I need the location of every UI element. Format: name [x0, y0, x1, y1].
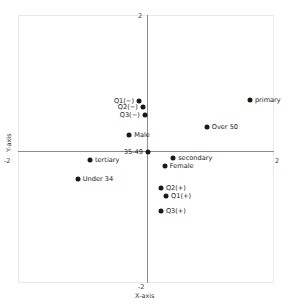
data-point-label: Under 34 — [83, 176, 113, 183]
data-point-label: Male — [134, 132, 150, 139]
data-point-label: Q2(+) — [166, 185, 186, 192]
data-point-marker — [87, 157, 92, 162]
data-point-marker — [140, 105, 145, 110]
data-point-label: Q1(+) — [171, 193, 191, 200]
data-point-label: Q3(−) — [120, 112, 140, 119]
data-point-label: Q2(−) — [118, 104, 138, 111]
data-point-label: Q3(+) — [166, 207, 186, 214]
data-point-marker — [247, 97, 252, 102]
data-point-marker — [127, 133, 132, 138]
data-point-label: tertiary — [95, 156, 119, 163]
data-point-label: primary — [255, 96, 281, 103]
y-axis-tick-top: 2 — [138, 13, 142, 20]
data-point-marker — [171, 155, 176, 160]
y-axis-title: Y-axis — [6, 133, 13, 152]
x-axis-tick-right: 2 — [275, 158, 279, 165]
data-point-marker — [164, 193, 169, 198]
data-point-marker — [158, 186, 163, 191]
data-point-marker — [75, 177, 80, 182]
data-point-marker — [142, 113, 147, 118]
data-point-label: secondary — [178, 155, 212, 162]
y-axis-tick-bottom: -2 — [138, 284, 144, 291]
data-point-label: 35-49 — [124, 149, 143, 156]
scatter-plot-screenshot: 2 -2 -2 2 X-axis Y-axis Q1(−)Q2(−)Q3(−)M… — [0, 0, 292, 304]
data-point-marker — [146, 150, 151, 155]
x-axis-tick-left: -2 — [4, 158, 10, 165]
data-point-marker — [162, 164, 167, 169]
data-point-label: Female — [170, 163, 194, 170]
data-point-label: Over 50 — [212, 124, 238, 131]
x-axis-title: X-axis — [135, 293, 155, 300]
data-point-marker — [158, 208, 163, 213]
data-point-marker — [204, 124, 209, 129]
